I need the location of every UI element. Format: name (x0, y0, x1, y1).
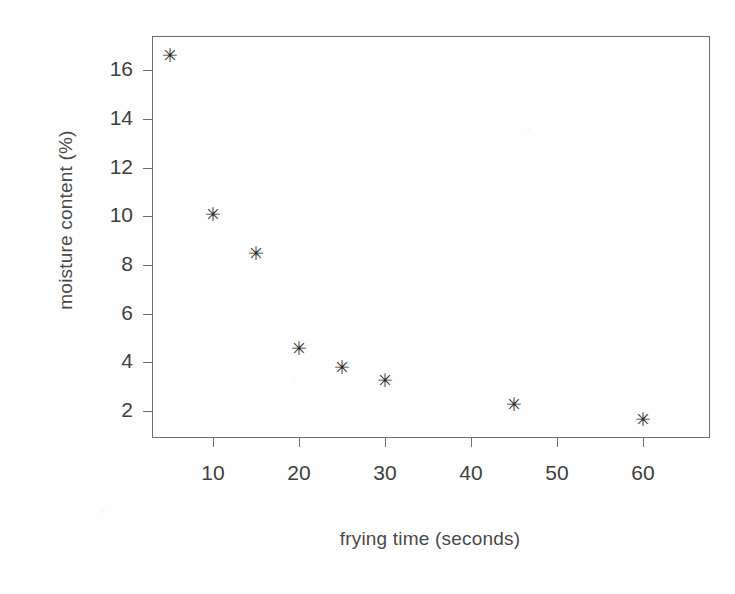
y-tick-label: 14 (81, 106, 133, 130)
plot-area: ✳✳✳✳✳✳✳✳ (152, 36, 710, 438)
data-point-star-icon: ✳ (635, 409, 651, 428)
y-tick-mark (143, 265, 152, 266)
y-tick-mark (143, 314, 152, 315)
data-point-star-icon: ✳ (162, 46, 178, 65)
data-point-star-icon: ✳ (291, 338, 307, 357)
y-tick-mark (143, 168, 152, 169)
y-tick-label: 8 (81, 252, 133, 276)
y-tick-mark (143, 70, 152, 71)
y-tick-mark (143, 216, 152, 217)
x-tick-label: 10 (173, 461, 253, 485)
x-tick-mark (643, 438, 644, 447)
y-tick-mark (143, 411, 152, 412)
data-point-star-icon: ✳ (377, 370, 393, 389)
y-tick-label: 2 (81, 398, 133, 422)
data-point-star-icon: ✳ (205, 204, 221, 223)
data-point-star-icon: ✳ (334, 358, 350, 377)
y-tick-mark (143, 362, 152, 363)
x-tick-mark (557, 438, 558, 447)
x-tick-mark (471, 438, 472, 447)
plot-frame (152, 36, 710, 438)
y-tick-label: 12 (81, 155, 133, 179)
x-tick-label: 50 (517, 461, 597, 485)
x-tick-label: 20 (259, 461, 339, 485)
data-point-star-icon: ✳ (506, 394, 522, 413)
x-tick-label: 40 (431, 461, 511, 485)
y-tick-label: 16 (81, 57, 133, 81)
x-tick-mark (213, 438, 214, 447)
x-tick-label: 60 (603, 461, 683, 485)
scatter-plot-figure: moisture content (%) ✳✳✳✳✳✳✳✳ 2468101214… (0, 0, 735, 594)
y-tick-mark (143, 119, 152, 120)
y-tick-label: 10 (81, 203, 133, 227)
x-tick-mark (385, 438, 386, 447)
x-tick-mark (299, 438, 300, 447)
x-tick-label: 30 (345, 461, 425, 485)
data-point-star-icon: ✳ (248, 243, 264, 262)
x-axis-label: frying time (seconds) (150, 528, 710, 550)
y-tick-label: 6 (81, 301, 133, 325)
y-tick-label: 4 (81, 349, 133, 373)
